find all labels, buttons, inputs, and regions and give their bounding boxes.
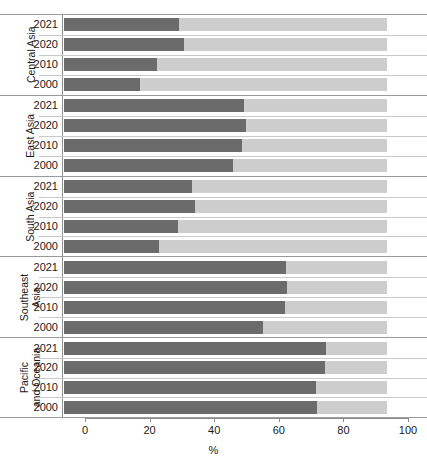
clipped-title-remnant [8, 0, 308, 4]
bar-track [64, 180, 387, 193]
bar-track [64, 281, 387, 294]
bar-row: 2020 [63, 197, 427, 217]
bar-track [64, 159, 387, 172]
bar-row: 2021 [63, 96, 427, 116]
bar-track [64, 261, 387, 274]
bar-row: 2010 [63, 217, 427, 237]
x-axis-tick-label: 80 [337, 424, 349, 436]
group-label: South Asia [25, 191, 37, 241]
year-label: 2010 [2, 221, 58, 232]
bar-fill [64, 200, 195, 213]
bar-row: 2020 [63, 116, 427, 136]
year-label: 2000 [2, 79, 58, 90]
bar-fill [64, 99, 244, 112]
plot-area: Central Asia2021202020102000East Asia202… [0, 14, 427, 418]
group-rows: 2021202020102000 [62, 177, 427, 257]
bar-track [64, 301, 387, 314]
group-rows: 2021202020102000 [62, 96, 427, 176]
bar-row: 2010 [63, 378, 427, 398]
year-label: 2020 [2, 201, 58, 212]
bar-track [64, 321, 387, 334]
bar-track [64, 38, 387, 51]
year-label: 2021 [2, 181, 58, 192]
bar-fill [64, 261, 286, 274]
bar-row: 2000 [63, 317, 427, 337]
bar-fill [64, 78, 140, 91]
x-axis-title: % [0, 444, 427, 456]
year-label: 2021 [2, 262, 58, 273]
group-band: Pacific and Oceania2021202020102000 [0, 337, 427, 418]
group-band: Central Asia2021202020102000 [0, 14, 427, 95]
bar-fill [64, 401, 317, 414]
x-axis-tick-label: 20 [143, 424, 155, 436]
x-axis-tick [279, 418, 280, 422]
bar-fill [64, 38, 184, 51]
bar-row: 2020 [63, 358, 427, 378]
bar-row: 2020 [63, 35, 427, 55]
bar-track [64, 58, 387, 71]
bar-fill [64, 139, 242, 152]
year-label: 2021 [2, 100, 58, 111]
year-label: 2021 [2, 19, 58, 30]
bar-track [64, 240, 387, 253]
year-label: 2000 [2, 322, 58, 333]
x-axis-tick [343, 418, 344, 422]
group-label: Central Asia [25, 27, 37, 84]
x-axis-tick [150, 418, 151, 422]
year-label: 2010 [2, 382, 58, 393]
group-rows: 2021202020102000 [62, 15, 427, 95]
bar-row: 2021 [63, 15, 427, 35]
x-axis-tick-label: 0 [82, 424, 88, 436]
x-axis-tick [214, 418, 215, 422]
bar-fill [64, 381, 316, 394]
bar-fill [64, 220, 178, 233]
year-label: 2000 [2, 241, 58, 252]
year-label: 2010 [2, 302, 58, 313]
bar-fill [64, 281, 287, 294]
bar-row: 2000 [63, 397, 427, 417]
bar-fill [64, 342, 326, 355]
bar-fill [64, 180, 192, 193]
x-axis-line [85, 418, 409, 419]
year-label: 2000 [2, 160, 58, 171]
bar-fill [64, 321, 263, 334]
year-label: 2020 [2, 120, 58, 131]
year-label: 2010 [2, 59, 58, 70]
bar-track [64, 361, 387, 374]
bar-row: 2021 [63, 338, 427, 358]
x-axis: % 020406080100 [0, 418, 427, 464]
bar-row: 2021 [63, 177, 427, 197]
bar-fill [64, 301, 285, 314]
x-axis-tick-label: 40 [208, 424, 220, 436]
bar-track [64, 200, 387, 213]
bar-track [64, 78, 387, 91]
year-label: 2010 [2, 140, 58, 151]
bar-row: 2000 [63, 156, 427, 176]
bar-track [64, 119, 387, 132]
bar-row: 2020 [63, 277, 427, 297]
bar-track [64, 99, 387, 112]
bar-row: 2000 [63, 75, 427, 95]
stacked-bar-chart: Central Asia2021202020102000East Asia202… [0, 0, 427, 464]
bar-row: 2000 [63, 236, 427, 256]
group-band: South Asia2021202020102000 [0, 176, 427, 257]
x-axis-tick-label: 100 [399, 424, 417, 436]
bar-row: 2010 [63, 297, 427, 317]
bar-track [64, 381, 387, 394]
year-label: 2020 [2, 282, 58, 293]
bar-fill [64, 119, 246, 132]
group-band: Southeast Asia2021202020102000 [0, 256, 427, 337]
bar-fill [64, 240, 159, 253]
bar-track [64, 139, 387, 152]
bar-row: 2010 [63, 136, 427, 156]
bar-fill [64, 18, 179, 31]
year-label: 2020 [2, 362, 58, 373]
bar-fill [64, 361, 325, 374]
group-rows: 2021202020102000 [62, 338, 427, 417]
x-axis-tick [85, 418, 86, 422]
bar-row: 2021 [63, 257, 427, 277]
bar-track [64, 220, 387, 233]
x-axis-tick [408, 418, 409, 422]
bar-row: 2010 [63, 55, 427, 75]
bar-track [64, 401, 387, 414]
